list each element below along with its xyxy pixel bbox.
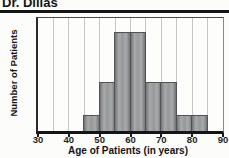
histogram-bar-55-60 [114, 32, 131, 131]
histogram-bar-50-55 [99, 82, 116, 131]
histogram-bar-75-80 [176, 115, 193, 131]
title-underline-rule [0, 10, 229, 13]
histogram-chart: Dr. Dillas Number of Patients Age of Pat… [0, 0, 229, 158]
gridline-x-40 [68, 18, 69, 131]
gridline-x-35 [53, 18, 54, 131]
plot-area [36, 17, 224, 134]
x-tick-label-80: 80 [187, 134, 198, 145]
x-axis-title: Age of Patients (in years) [68, 145, 188, 156]
x-tick-label-90: 90 [218, 134, 229, 145]
chart-title: Dr. Dillas [2, 0, 58, 10]
histogram-bar-80-85 [191, 115, 208, 131]
x-tick-label-60: 60 [125, 134, 136, 145]
histogram-bar-70-75 [160, 82, 177, 131]
x-tick-label-70: 70 [156, 134, 167, 145]
histogram-bar-60-65 [130, 32, 147, 131]
histogram-bar-45-50 [83, 115, 100, 131]
y-axis-title: Number of Patients [8, 29, 19, 116]
x-tick-label-40: 40 [64, 134, 75, 145]
histogram-bar-65-70 [145, 82, 162, 131]
x-tick-label-30: 30 [33, 134, 44, 145]
x-tick-label-50: 50 [94, 134, 105, 145]
